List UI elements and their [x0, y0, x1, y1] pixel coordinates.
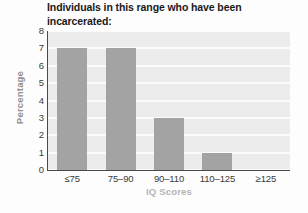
bar [202, 153, 232, 170]
bar-slot [48, 31, 96, 170]
y-tick-label: 4 [26, 96, 44, 106]
plot-area [48, 31, 290, 170]
x-axis-label: IQ Scores [48, 186, 290, 197]
y-axis-label: Percentage [14, 58, 25, 138]
bar-slot [242, 31, 290, 170]
y-tick-label: 3 [26, 113, 44, 123]
y-tick-label: 0 [26, 165, 44, 175]
y-tick-labels: 876543210 [26, 31, 44, 170]
bar-slot [96, 31, 144, 170]
y-tick-label: 1 [26, 148, 44, 158]
bar-slot [193, 31, 241, 170]
bar-series [48, 31, 290, 170]
bar [106, 48, 136, 170]
bar-chart-figure: Individuals in this range who have been … [0, 0, 308, 213]
x-tick-label: 90–110 [145, 173, 193, 184]
y-tick-label: 7 [26, 44, 44, 54]
x-tick-label: ≥125 [242, 173, 290, 184]
chart-title: Individuals in this range who have been … [47, 1, 299, 28]
x-tick-labels: ≤7575–9090–110110–125≥125 [48, 173, 290, 184]
y-tick-label: 6 [26, 61, 44, 71]
bar [57, 48, 87, 170]
bar [154, 118, 184, 170]
y-axis-line [47, 31, 48, 171]
y-tick-label: 5 [26, 78, 44, 88]
x-tick-label: ≤75 [48, 173, 96, 184]
x-axis-line [47, 170, 290, 171]
y-tick-label: 2 [26, 131, 44, 141]
bar-slot [145, 31, 193, 170]
x-tick-label: 110–125 [193, 173, 241, 184]
y-tick-label: 8 [26, 26, 44, 36]
x-tick-label: 75–90 [96, 173, 144, 184]
